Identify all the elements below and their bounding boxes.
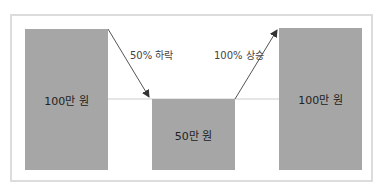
bar-start-label: 100만 원 (44, 92, 89, 108)
decline-label: 50% 하락 (130, 47, 173, 62)
rise-label: 100% 상승 (214, 47, 264, 62)
bar-middle-label: 50만 원 (175, 127, 213, 143)
bar-end: 100만 원 (279, 28, 362, 170)
bar-end-label: 100만 원 (298, 91, 343, 107)
bar-middle: 50만 원 (152, 99, 235, 170)
down-arrow-icon (108, 29, 149, 97)
up-arrow-icon (235, 30, 277, 99)
bar-start: 100만 원 (25, 29, 108, 170)
